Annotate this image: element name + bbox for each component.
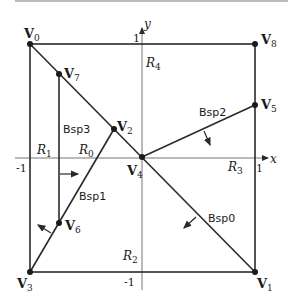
vertex-v4-label: V4 — [126, 163, 143, 180]
region-r3-label: R3 — [227, 160, 243, 176]
vertex-v2-label: V2 — [116, 119, 133, 136]
y-tick-neg1: -1 — [124, 276, 135, 289]
bsp1-normal-arrow — [38, 225, 51, 233]
vertex-v6-label: V6 — [64, 218, 81, 235]
x-tick-neg1: -1 — [16, 162, 27, 175]
vertex-v5-label: V5 — [260, 97, 277, 114]
y-axis-label: y — [143, 17, 151, 31]
vertex-v3-label: V3 — [16, 276, 33, 293]
bsp2-label: Bsp2 — [199, 106, 226, 119]
vertex-v0-label: V0 — [23, 26, 40, 43]
top-border — [15, 0, 288, 2]
vertex-v1-label: V1 — [256, 276, 273, 293]
vertex-v8-label: V8 — [260, 32, 277, 49]
region-r2-label: R2 — [122, 249, 138, 265]
x-tick-1: 1 — [256, 162, 263, 175]
bsp3-label: Bsp3 — [63, 123, 90, 136]
region-r1-label: R1 — [36, 143, 52, 159]
region-r0-label: R0 — [78, 143, 94, 159]
bsp0-normal-arrow — [184, 217, 196, 228]
bsp0-label: Bsp0 — [208, 212, 235, 225]
x-axis-label: x — [270, 152, 277, 166]
vertex-v7-label: V7 — [63, 66, 80, 83]
bsp-diagram: V0 V8 V5 V7 V2 V4 V6 V3 V1 R0 R1 R2 R3 R… — [0, 0, 288, 303]
bsp2-normal-arrow — [204, 131, 210, 145]
bsp1-label: Bsp1 — [79, 190, 106, 203]
y-tick-1: 1 — [133, 32, 140, 45]
region-r4-label: R4 — [145, 56, 161, 72]
